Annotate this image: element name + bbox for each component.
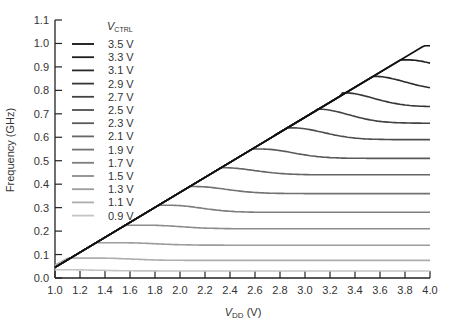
- x-tick-label: 2.4: [222, 284, 237, 296]
- legend-label: 3.3 V: [108, 51, 134, 63]
- y-tick-label: 0.2: [34, 225, 49, 237]
- x-tick-label: 3.8: [397, 284, 412, 296]
- y-tick-label: 1.1: [34, 14, 49, 26]
- curve-13V: [55, 243, 430, 268]
- y-tick-label: 0.9: [34, 61, 49, 73]
- legend-label: 0.9 V: [108, 210, 134, 222]
- y-tick-label: 0.5: [34, 155, 49, 167]
- legend-label: 1.3 V: [108, 183, 134, 195]
- legend-label: 2.3 V: [108, 117, 134, 129]
- y-tick-label: 0.6: [34, 131, 49, 143]
- y-tick-label: 0.0: [34, 272, 49, 284]
- curve-09V: [55, 270, 430, 271]
- y-tick-label: 0.3: [34, 202, 49, 214]
- legend-label: 2.9 V: [108, 78, 134, 90]
- axes: 0.00.10.20.30.40.50.60.70.80.91.01.11.01…: [34, 14, 438, 296]
- x-tick-label: 2.8: [272, 284, 287, 296]
- x-tick-label: 3.4: [347, 284, 362, 296]
- x-tick-label: 4.0: [422, 284, 437, 296]
- y-tick-label: 1.0: [34, 37, 49, 49]
- legend-label: 3.5 V: [108, 38, 134, 50]
- x-tick-label: 2.6: [247, 284, 262, 296]
- legend-label: 1.7 V: [108, 157, 134, 169]
- x-tick-label: 1.0: [47, 284, 62, 296]
- y-tick-label: 0.4: [34, 178, 49, 190]
- y-tick-label: 0.1: [34, 249, 49, 261]
- x-tick-label: 3.2: [322, 284, 337, 296]
- x-tick-label: 1.2: [72, 284, 87, 296]
- y-tick-label: 0.7: [34, 108, 49, 120]
- legend-label: 2.1 V: [108, 130, 134, 142]
- x-tick-label: 3.0: [297, 284, 312, 296]
- curve-11V: [55, 258, 430, 265]
- legend-label: 1.5 V: [108, 170, 134, 182]
- legend-label: 3.1 V: [108, 64, 134, 76]
- x-tick-label: 1.6: [122, 284, 137, 296]
- legend-title: VCTRL: [107, 20, 133, 33]
- x-tick-label: 3.6: [372, 284, 387, 296]
- y-axis-label: Frequency (GHz): [4, 108, 16, 192]
- legend-label: 2.5 V: [108, 104, 134, 116]
- x-axis-label: VDD (V): [225, 306, 262, 320]
- legend-label: 1.9 V: [108, 144, 134, 156]
- x-tick-label: 1.8: [147, 284, 162, 296]
- frequency-vs-vdd-chart: 0.00.10.20.30.40.50.60.70.80.91.01.11.01…: [0, 0, 457, 328]
- legend: VCTRL3.5 V3.3 V3.1 V2.9 V2.7 V2.5 V2.3 V…: [72, 20, 134, 222]
- y-tick-label: 0.8: [34, 84, 49, 96]
- legend-label: 1.1 V: [108, 196, 134, 208]
- legend-label: 2.7 V: [108, 91, 134, 103]
- x-tick-label: 2.0: [172, 284, 187, 296]
- x-tick-label: 2.2: [197, 284, 212, 296]
- x-tick-label: 1.4: [97, 284, 112, 296]
